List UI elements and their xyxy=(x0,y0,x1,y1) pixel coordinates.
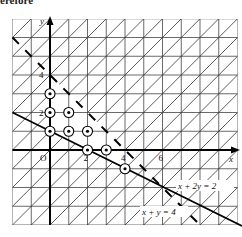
lattice-point-dot-icon xyxy=(86,130,89,133)
label-x-plus-y-eq-4: x + y = 4 xyxy=(141,207,176,217)
y-tick-4: 4 xyxy=(39,70,44,80)
lattice-point-dot-icon xyxy=(123,167,126,170)
y-axis-label: y xyxy=(39,16,44,26)
lattice-point-dot-icon xyxy=(86,148,89,151)
origin-label: O xyxy=(40,153,47,163)
grid xyxy=(13,19,238,225)
x-tick-6: 6 xyxy=(159,153,164,163)
x-tick-4: 4 xyxy=(121,153,126,163)
y-tick-2: 2 xyxy=(39,108,44,118)
lattice-point-dot-icon xyxy=(48,92,51,95)
lattice-point-dot-icon xyxy=(67,130,70,133)
lattice-point-dot-icon xyxy=(48,111,51,114)
feasible-region-diagram: y x O 2 4 6 2 4 x + 2y = 2 x + y = 4 xyxy=(0,0,242,237)
x-axis-label: x xyxy=(228,154,233,164)
label-x-plus-2y-eq-2: x + 2y = 2 xyxy=(177,181,217,191)
y-axis-arrow-icon xyxy=(47,16,54,25)
lattice-point-dot-icon xyxy=(67,111,70,114)
lattice-point-dot-icon xyxy=(105,148,108,151)
lattice-point-dot-icon xyxy=(48,130,51,133)
hatch-shading xyxy=(0,0,242,237)
